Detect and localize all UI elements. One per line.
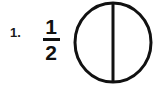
fraction: 1 2	[40, 16, 62, 63]
item-number: 1.	[10, 26, 21, 40]
fraction-denominator: 2	[40, 42, 62, 63]
worksheet-item: 1. 1 2	[0, 0, 160, 85]
circle-figure	[73, 1, 153, 84]
fraction-numerator: 1	[40, 16, 62, 37]
